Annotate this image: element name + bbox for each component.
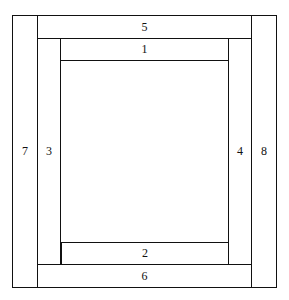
strip-label: 6 bbox=[142, 269, 148, 284]
strip-label: 2 bbox=[142, 246, 148, 261]
strip-label: 1 bbox=[142, 42, 148, 57]
strip-4: 4 bbox=[228, 38, 252, 265]
strip-2: 2 bbox=[61, 242, 229, 265]
strip-label: 8 bbox=[261, 144, 267, 159]
strip-8: 8 bbox=[251, 15, 277, 288]
strip-label: 4 bbox=[237, 144, 243, 159]
quilt-block-diagram: 7 8 5 6 3 4 1 2 bbox=[0, 0, 289, 300]
strip-3: 3 bbox=[37, 38, 61, 265]
strip-label: 5 bbox=[142, 20, 148, 35]
strip-label: 7 bbox=[22, 144, 28, 159]
strip-1: 1 bbox=[60, 38, 229, 61]
strip-5: 5 bbox=[37, 15, 252, 39]
strip-label: 3 bbox=[46, 144, 52, 159]
center-square bbox=[60, 60, 229, 243]
strip-6: 6 bbox=[37, 264, 252, 288]
strip-7: 7 bbox=[12, 15, 38, 288]
